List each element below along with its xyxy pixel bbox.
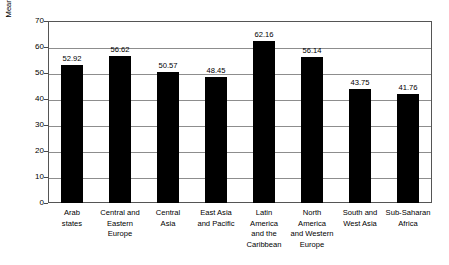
x-axis-category-labels: Arab statesCentral and Eastern EuropeCen… (48, 208, 432, 264)
bar-value-label: 43.75 (350, 78, 369, 87)
bar-chart: Mean percentage of women students by reg… (0, 0, 449, 265)
y-tick-label: 20 (22, 147, 44, 155)
y-tick-label: 50 (22, 69, 44, 77)
y-tick-mark (44, 203, 48, 204)
bar-value-label: 41.76 (398, 83, 417, 92)
bar-slot: 52.92 (48, 21, 96, 203)
bar-slot: 56.62 (96, 21, 144, 203)
bar[interactable] (205, 77, 227, 203)
bar-slot: 62.16 (240, 21, 288, 203)
bar-value-label: 62.16 (254, 30, 273, 39)
bar-slot: 56.14 (288, 21, 336, 203)
x-category-label: North America and Western Europe (288, 208, 336, 250)
x-category-label: Arab states (48, 208, 96, 229)
x-category-label: Central Asia (144, 208, 192, 229)
x-category-label: South and West Asia (336, 208, 384, 229)
y-tick-label: 0 (22, 199, 44, 207)
bar[interactable] (301, 57, 323, 203)
x-category-label: East Asia and Pacific (192, 208, 240, 229)
bar-value-label: 50.57 (158, 61, 177, 70)
bar-slot: 41.76 (384, 21, 432, 203)
bar[interactable] (397, 94, 419, 203)
y-tick-label: 70 (22, 17, 44, 25)
bar[interactable] (109, 56, 131, 203)
bar-slot: 48.45 (192, 21, 240, 203)
y-tick-label: 40 (22, 95, 44, 103)
bar-value-label: 48.45 (206, 66, 225, 75)
y-tick-label: 10 (22, 173, 44, 181)
bar-slot: 50.57 (144, 21, 192, 203)
bar[interactable] (253, 41, 275, 203)
x-category-label: Central and Eastern Europe (96, 208, 144, 240)
x-category-label: Sub-Saharan Africa (384, 208, 432, 229)
bar[interactable] (349, 89, 371, 203)
y-axis-ticks: 706050403020100 (20, 0, 44, 265)
y-axis-title: Mean percentage of women students by reg… (2, 0, 16, 28)
y-tick-label: 30 (22, 121, 44, 129)
bar-value-label: 52.92 (62, 54, 81, 63)
x-category-label: Latin America and the Caribbean (240, 208, 288, 250)
y-tick-label: 60 (22, 43, 44, 51)
bars-layer: 52.9256.6250.5748.4562.1656.1443.7541.76 (48, 21, 432, 203)
bar-slot: 43.75 (336, 21, 384, 203)
bar-value-label: 56.14 (302, 46, 321, 55)
bar[interactable] (157, 72, 179, 203)
bar[interactable] (61, 65, 83, 203)
bar-value-label: 56.62 (110, 45, 129, 54)
